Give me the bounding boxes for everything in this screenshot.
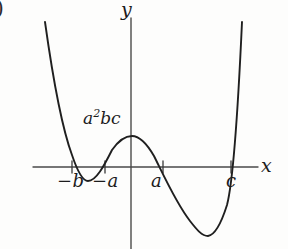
x-tick-label-neg-a: −a	[92, 172, 119, 190]
x-tick-label-a: a	[151, 172, 162, 190]
intercept-base-right: bc	[100, 108, 120, 128]
y-intercept-annotation: a2bc	[83, 110, 121, 127]
graph-canvas	[0, 0, 288, 249]
x-tick-label-c: c	[226, 172, 236, 190]
x-axis-label: x	[261, 156, 272, 175]
quartic-curve	[45, 22, 242, 236]
figure-container: ) y x −b −a a c a2bc	[0, 0, 288, 249]
x-tick-label-neg-b: −b	[57, 172, 85, 190]
intercept-base-left: a	[83, 108, 93, 128]
y-axis-label: y	[121, 0, 132, 19]
